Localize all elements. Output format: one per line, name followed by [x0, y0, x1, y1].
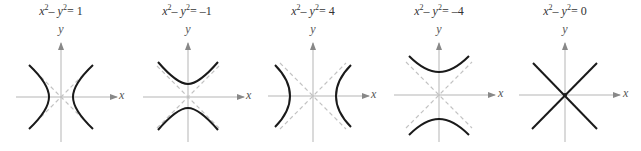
hyperbola-graphs [0, 0, 641, 151]
hyperbola-figure: x2– y2= 1 x2– y2= –1 x2– y2= 4 x2– y2= –… [0, 0, 641, 151]
panel-5-graph [519, 43, 620, 142]
panel-5-origin-point [563, 93, 567, 97]
panel-3-graph [268, 43, 369, 142]
panel-1-graph [16, 43, 117, 142]
panel-2-graph [143, 43, 244, 142]
panel-4-graph [394, 43, 495, 142]
